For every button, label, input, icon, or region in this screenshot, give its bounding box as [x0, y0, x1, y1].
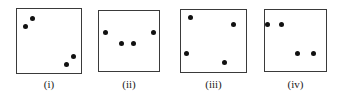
panel-3: (iii): [0, 0, 342, 95]
panel-label-4: (iv): [264, 78, 327, 90]
dot: [295, 51, 300, 56]
dot: [71, 54, 76, 59]
dot: [265, 22, 270, 27]
dot: [119, 41, 124, 46]
panel-2: (ii): [0, 0, 342, 95]
dot: [311, 51, 316, 56]
dot: [103, 30, 108, 35]
panel-label-2: (ii): [98, 78, 160, 90]
dot: [188, 15, 193, 20]
panel-1: (i): [0, 0, 342, 95]
dot: [64, 62, 69, 67]
panel-4: (iv): [0, 0, 342, 95]
panel-label-1: (i): [16, 78, 82, 90]
dot-pattern-figure: (i)(ii)(iii)(iv): [0, 0, 342, 95]
panel-label-3: (iii): [180, 78, 247, 90]
dot: [184, 51, 189, 56]
dot: [151, 30, 156, 35]
dot: [30, 16, 35, 21]
dot: [222, 60, 227, 65]
dot: [131, 41, 136, 46]
panel-square-3: [180, 9, 247, 73]
panel-square-4: [264, 9, 327, 72]
panel-square-2: [98, 10, 160, 72]
dot: [23, 24, 28, 29]
dot: [279, 22, 284, 27]
dot: [231, 22, 236, 27]
panel-square-1: [16, 8, 82, 74]
